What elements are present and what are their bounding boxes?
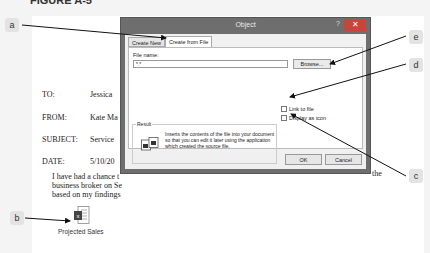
file-name-label: File name: bbox=[133, 52, 159, 58]
object-dialog: Object ? ✕ Create New Create from File F… bbox=[120, 17, 371, 174]
browse-button[interactable]: Browse... bbox=[293, 59, 331, 69]
callout-e: e bbox=[409, 30, 423, 44]
from-value: Kate Ma bbox=[90, 113, 118, 122]
from-label: FROM: bbox=[42, 113, 67, 122]
callout-a: a bbox=[5, 18, 19, 32]
to-label: TO: bbox=[42, 90, 55, 99]
callout-d: d bbox=[409, 58, 423, 72]
link-to-file-label: Link to file bbox=[289, 106, 314, 112]
ok-button[interactable]: OK bbox=[285, 154, 322, 165]
to-value: Jessica bbox=[90, 90, 112, 99]
callout-b: b bbox=[10, 211, 24, 225]
link-to-file-option[interactable]: Link to file bbox=[281, 106, 314, 112]
excel-file-icon[interactable]: x bbox=[74, 206, 90, 224]
tab-create-new[interactable]: Create New bbox=[128, 37, 165, 47]
svg-text:x: x bbox=[77, 213, 80, 219]
embed-document-icon bbox=[141, 137, 159, 151]
figure-caption: FIGURE A-5 bbox=[30, 0, 92, 6]
date-value: 5/10/20 bbox=[90, 157, 114, 166]
display-as-icon-checkbox[interactable] bbox=[281, 115, 287, 121]
dialog-titlebar[interactable]: Object ? ✕ bbox=[121, 18, 370, 33]
result-group: Result Inserts the contents of the file … bbox=[132, 124, 277, 164]
callout-c: c bbox=[409, 169, 423, 183]
display-as-icon-label: Display as icon bbox=[289, 115, 326, 121]
tab-panel: File name: *.* Browse... Link to file Di… bbox=[128, 47, 363, 149]
subject-value: Service bbox=[90, 135, 114, 144]
result-description: Inserts the contents of the file into yo… bbox=[165, 131, 275, 149]
dialog-title: Object bbox=[121, 21, 370, 28]
body-line: business broker on Se bbox=[52, 181, 122, 190]
date-label: DATE: bbox=[42, 157, 65, 166]
body-line: based on my findings bbox=[52, 190, 121, 199]
help-button[interactable]: ? bbox=[336, 20, 340, 27]
close-button[interactable]: ✕ bbox=[344, 19, 366, 31]
embedded-object-label: Projected Sales bbox=[58, 228, 104, 235]
file-name-input[interactable]: *.* bbox=[133, 60, 288, 68]
dialog-body: Create New Create from File File name: *… bbox=[125, 34, 366, 169]
body-line: I have had a chance t bbox=[52, 172, 119, 181]
body-tail: the bbox=[372, 169, 382, 178]
link-to-file-checkbox[interactable] bbox=[281, 106, 287, 112]
display-as-icon-option[interactable]: Display as icon bbox=[281, 115, 326, 121]
cancel-button[interactable]: Cancel bbox=[325, 154, 362, 165]
subject-label: SUBJECT: bbox=[42, 135, 78, 144]
result-label: Result bbox=[136, 121, 152, 127]
